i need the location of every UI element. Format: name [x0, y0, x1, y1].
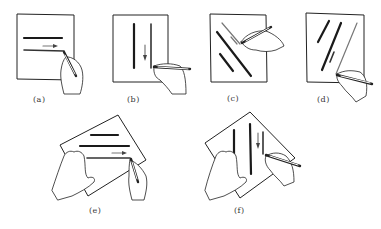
panel-b-label: (b): [127, 95, 140, 104]
panel-e: [52, 115, 147, 200]
right-hand-with-pencil-icon: [129, 159, 147, 200]
panel-a-label: (a): [33, 95, 46, 104]
pencil-line-drawing-figure: (a) (b) (c) (d) (e) (f): [0, 0, 381, 229]
horizontal-line: [24, 50, 64, 51]
panel-a: [17, 14, 83, 94]
right-hand-with-pencil-icon: [154, 64, 190, 94]
panel-b: [113, 15, 190, 94]
panel-f: [205, 112, 300, 200]
panel-f-label: (f): [234, 206, 245, 215]
panel-c-label: (c): [227, 94, 239, 103]
panel-c: [210, 14, 284, 82]
panel-d-label: (d): [317, 95, 330, 104]
right-hand-with-pencil-icon: [337, 71, 372, 102]
vertical-line: [250, 124, 251, 174]
panel-e-label: (e): [89, 206, 101, 215]
figure-drawing: [0, 0, 381, 229]
panel-d: [306, 13, 372, 102]
